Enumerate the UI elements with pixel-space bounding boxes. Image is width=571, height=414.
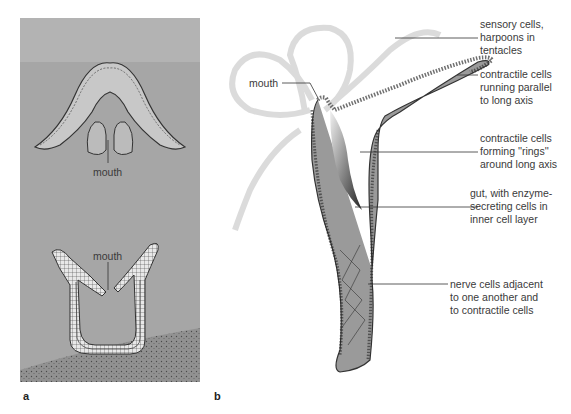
label-gut: gut, with enzyme- secreting cells in inn…	[470, 187, 552, 226]
label-mouth-polyp: mouth	[93, 250, 122, 263]
label-mouth-medusa: mouth	[93, 166, 122, 179]
hydra-body	[312, 57, 492, 372]
label-sensory-cells: sensory cells, harpoons in tentacles	[480, 18, 544, 57]
panel-letter-b: b	[214, 390, 221, 402]
medusa-drawing	[35, 63, 185, 163]
sediment	[20, 328, 200, 382]
label-contractile-parallel: contractile cells running parallel to lo…	[480, 68, 552, 107]
label-mouth-hydra: mouth	[249, 77, 278, 90]
label-nerve-cells: nerve cells adjacent to one another and …	[450, 278, 543, 317]
leader-lines	[282, 38, 478, 284]
label-contractile-rings: contractile cells forming ''rings'' arou…	[480, 132, 557, 171]
panel-letter-a: a	[23, 390, 29, 402]
